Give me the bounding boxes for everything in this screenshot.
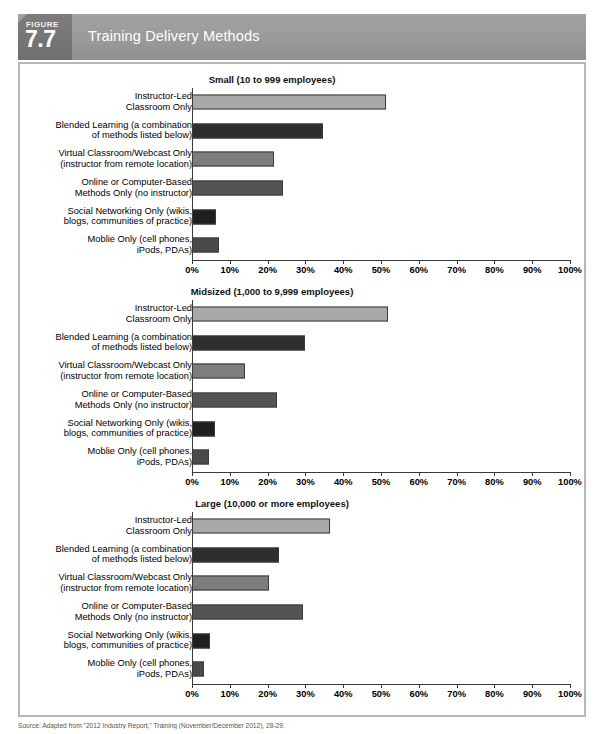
x-axis-tick [419, 260, 420, 264]
bar-blended-learning [192, 547, 279, 562]
category-label-instructor-led: Instructor-LedClassroom Only [0, 516, 192, 537]
x-axis-tick-label: 90% [523, 265, 542, 275]
chart-title: Large (10,000 or more employees) [82, 498, 462, 509]
x-axis-tick [419, 472, 420, 476]
bar-row: Blended Learning (a combinationof method… [20, 117, 588, 146]
category-label-mobile-only: Moblie Only (cell phones,iPods, PDAs) [0, 235, 192, 256]
x-axis-tick [457, 260, 458, 264]
page-title: Training Delivery Methods [88, 28, 260, 44]
bar-virtual-classroom [192, 364, 245, 379]
x-axis-tick-label: 30% [296, 265, 315, 275]
bar-row: Blended Learning (a combinationof method… [20, 329, 588, 358]
bar-row: Online or Computer-BasedMethods Only (no… [20, 174, 588, 203]
x-axis-tick-label: 80% [485, 477, 504, 487]
x-axis-tick-label: 40% [334, 689, 353, 699]
bar-row: Instructor-LedClassroom Only [20, 88, 588, 117]
bar-row: Virtual Classroom/Webcast Only(instructo… [20, 145, 588, 174]
bar-virtual-classroom [192, 576, 269, 591]
x-axis-tick [494, 260, 495, 264]
x-axis-tick [381, 260, 382, 264]
category-label-social-networking: Social Networking Only (wikis,blogs, com… [0, 630, 192, 651]
bar-mobile-only [192, 662, 204, 677]
x-axis-tick-label: 50% [372, 265, 391, 275]
bar-instructor-led [192, 95, 386, 110]
x-axis-tick [494, 684, 495, 688]
x-axis-tick-label: 100% [558, 689, 582, 699]
category-label-instructor-led: Instructor-LedClassroom Only [0, 92, 192, 113]
bar-rows: Instructor-LedClassroom OnlyBlended Lear… [20, 300, 588, 472]
x-axis-tick [268, 472, 269, 476]
category-label-mobile-only: Moblie Only (cell phones,iPods, PDAs) [0, 659, 192, 680]
x-axis-tick [532, 260, 533, 264]
x-axis-tick [230, 684, 231, 688]
bar-row: Blended Learning (a combinationof method… [20, 541, 588, 570]
x-axis-tick-label: 30% [296, 477, 315, 487]
bar-mobile-only [192, 238, 219, 253]
x-axis-tick [305, 260, 306, 264]
category-label-blended-learning: Blended Learning (a combinationof method… [0, 332, 192, 353]
x-axis-tick-label: 0% [185, 689, 198, 699]
x-axis-tick [381, 684, 382, 688]
x-axis-tick-label: 60% [409, 689, 428, 699]
x-axis-tick [419, 684, 420, 688]
x-axis-tick-label: 90% [523, 689, 542, 699]
x-axis-tick-label: 70% [447, 689, 466, 699]
bar-rows: Instructor-LedClassroom OnlyBlended Lear… [20, 88, 588, 260]
figure-panel: Small (10 to 999 employees)Instructor-Le… [18, 62, 586, 717]
category-label-online-computer-based: Online or Computer-BasedMethods Only (no… [0, 602, 192, 623]
bar-row: Social Networking Only (wikis,blogs, com… [20, 202, 588, 231]
category-label-social-networking: Social Networking Only (wikis,blogs, com… [0, 206, 192, 227]
bar-row: Moblie Only (cell phones,iPods, PDAs) [20, 655, 588, 684]
category-label-mobile-only: Moblie Only (cell phones,iPods, PDAs) [0, 447, 192, 468]
bar-blended-learning [192, 335, 305, 350]
bar-social-networking [192, 633, 210, 648]
bar-online-computer-based [192, 181, 283, 196]
category-label-virtual-classroom: Virtual Classroom/Webcast Only(instructo… [0, 361, 192, 382]
x-axis-tick [305, 684, 306, 688]
x-axis-tick-label: 70% [447, 265, 466, 275]
bar-online-computer-based [192, 393, 277, 408]
x-axis-tick-label: 80% [485, 689, 504, 699]
x-axis-tick-label: 90% [523, 477, 542, 487]
category-label-virtual-classroom: Virtual Classroom/Webcast Only(instructo… [0, 149, 192, 170]
chart-title: Small (10 to 999 employees) [82, 74, 462, 85]
category-label-social-networking: Social Networking Only (wikis,blogs, com… [0, 418, 192, 439]
x-axis-tick [570, 472, 571, 476]
x-axis-tick-label: 20% [258, 689, 277, 699]
x-axis-tick-label: 20% [258, 265, 277, 275]
x-axis-tick [268, 260, 269, 264]
x-axis-tick-label: 70% [447, 477, 466, 487]
category-label-online-computer-based: Online or Computer-BasedMethods Only (no… [0, 178, 192, 199]
bar-row: Instructor-LedClassroom Only [20, 512, 588, 541]
bar-row: Moblie Only (cell phones,iPods, PDAs) [20, 443, 588, 472]
x-axis-tick-label: 10% [220, 265, 239, 275]
bar-instructor-led [192, 519, 330, 534]
y-axis-line [192, 512, 193, 684]
x-axis-tick [570, 260, 571, 264]
bar-mobile-only [192, 450, 209, 465]
x-axis-tick [343, 472, 344, 476]
bar-row: Social Networking Only (wikis,blogs, com… [20, 414, 588, 443]
figure-source-note: Source: Adapted from "2012 Industry Repo… [18, 722, 598, 729]
category-label-blended-learning: Blended Learning (a combinationof method… [0, 544, 192, 565]
x-axis-tick [305, 472, 306, 476]
x-axis-tick [230, 260, 231, 264]
x-axis-tick [192, 472, 193, 476]
category-label-online-computer-based: Online or Computer-BasedMethods Only (no… [0, 390, 192, 411]
x-axis-tick-label: 30% [296, 689, 315, 699]
category-label-blended-learning: Blended Learning (a combinationof method… [0, 120, 192, 141]
x-axis-tick [192, 260, 193, 264]
figure-container: FIGURE 7.7 Training Delivery Methods Sma… [0, 0, 605, 734]
x-axis-tick [192, 684, 193, 688]
x-axis-tick-label: 0% [185, 265, 198, 275]
bar-social-networking [192, 209, 216, 224]
bar-row: Instructor-LedClassroom Only [20, 300, 588, 329]
y-axis-line [192, 300, 193, 472]
category-label-instructor-led: Instructor-LedClassroom Only [0, 304, 192, 325]
x-axis-tick [268, 684, 269, 688]
plot-area: Instructor-LedClassroom OnlyBlended Lear… [20, 88, 588, 260]
x-axis-tick [343, 684, 344, 688]
x-axis-tick [457, 684, 458, 688]
plot-area: Instructor-LedClassroom OnlyBlended Lear… [20, 512, 588, 684]
figure-badge-number: 7.7 [25, 28, 55, 51]
